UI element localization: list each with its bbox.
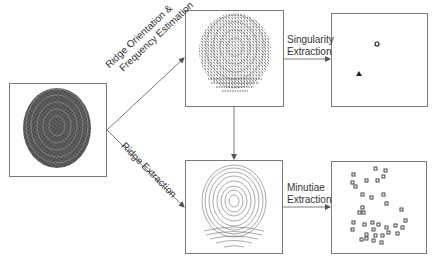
label-singularity-extraction: Singularity Extraction [287,34,334,58]
label-line-2: Extraction [287,194,331,206]
label-minutiae-extraction: Minutiae Extraction [287,182,331,206]
connectors [0,0,440,261]
label-line-2: Extraction [287,46,334,58]
label-line-1: Minutiae [287,182,331,194]
label-line-1: Singularity [287,34,334,46]
fingerprint-pipeline-diagram: Ridge Orientation & Frequency Estimation… [0,0,440,261]
